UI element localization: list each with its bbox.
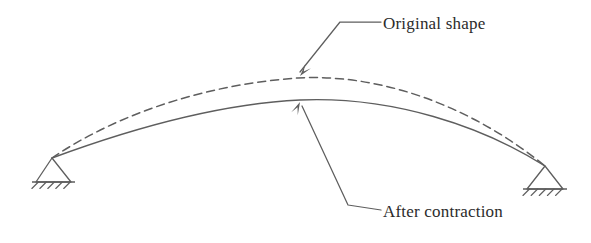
hatch-tick	[531, 189, 538, 196]
right-pinned-support	[523, 166, 567, 196]
diagram-canvas: Original shape After contraction	[0, 0, 591, 243]
left-support-ground-hatching-icon	[32, 182, 70, 189]
left-support-triangle-icon	[36, 158, 71, 182]
right-support-triangle-icon	[527, 166, 563, 189]
hatch-tick	[56, 182, 63, 189]
after-contraction-arrow-icon	[291, 102, 300, 115]
hatch-tick	[64, 182, 71, 189]
hatch-tick	[40, 182, 47, 189]
original-shape-label: Original shape	[383, 14, 485, 33]
left-pinned-support	[32, 158, 75, 189]
arch-deformation-figure: Original shape After contraction	[0, 0, 591, 243]
arch-curves	[52, 78, 545, 166]
hatch-tick	[539, 189, 546, 196]
hatch-tick	[556, 189, 563, 196]
hatch-tick	[48, 182, 55, 189]
right-support-ground-hatching-icon	[523, 189, 562, 196]
leader-lines	[291, 22, 381, 210]
after-contraction-label: After contraction	[383, 202, 503, 221]
hatch-tick	[523, 189, 530, 196]
after-contraction-leader-line	[302, 106, 381, 210]
original-shape-leader-line	[300, 22, 381, 72]
hatch-tick	[32, 182, 39, 189]
original-shape-curve	[52, 78, 545, 166]
hatch-tick	[547, 189, 554, 196]
